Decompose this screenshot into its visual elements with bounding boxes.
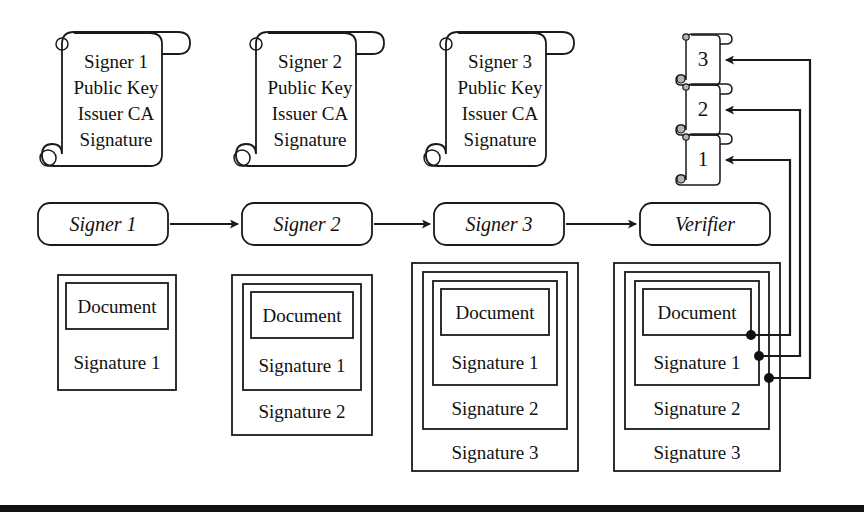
scroll-3-label: 3: [698, 47, 709, 71]
stack-2-signature-2-label: Signature 2: [258, 401, 345, 422]
diagram-canvas: Signer 1 Public Key Issuer CA Signature …: [0, 0, 864, 529]
connector-signature2-to-scroll-3: [726, 60, 810, 378]
actor-signer-2-label: Signer 2: [273, 213, 340, 236]
actor-signer-1-label: Signer 1: [69, 213, 136, 236]
actor-signer-1[interactable]: Signer 1: [38, 203, 168, 245]
scroll-3-bottom-knob: [677, 75, 685, 83]
numbered-scroll-3: 3: [676, 34, 732, 85]
stack-1: Document Signature 1: [58, 275, 176, 390]
stack-2-signature-1-label: Signature 1: [258, 355, 345, 376]
cert-2-line-1: Public Key: [268, 77, 353, 98]
actor-verifier-label: Verifier: [675, 213, 735, 236]
scroll-1-top-knob: [683, 134, 689, 140]
stack-3-document-label: Document: [455, 302, 535, 323]
scroll-2-bottom-knob: [677, 125, 685, 133]
stack-4-signature-3-label: Signature 3: [653, 442, 740, 463]
scroll-1-label: 1: [698, 147, 709, 171]
scroll-2-label: 2: [698, 97, 709, 121]
connector-dot-document: [746, 330, 756, 340]
actor-signer-2[interactable]: Signer 2: [242, 203, 372, 245]
cert-3-line-0: Signer 3: [468, 51, 532, 72]
stack-1-signature-1-label: Signature 1: [73, 352, 160, 373]
stack-4-document-label: Document: [657, 302, 737, 323]
certificate-scroll-1: Signer 1 Public Key Issuer CA Signature: [40, 32, 190, 166]
cert-1-line-1: Public Key: [74, 77, 159, 98]
stack-3-signature-1-label: Signature 1: [451, 352, 538, 373]
stack-2: Document Signature 1 Signature 2: [232, 275, 372, 435]
connector-dot-signature-1: [754, 351, 764, 361]
cert-2-line-2: Issuer CA: [272, 103, 349, 124]
cert-3-line-2: Issuer CA: [462, 103, 539, 124]
actor-verifier[interactable]: Verifier: [640, 203, 770, 245]
stack-3: Document Signature 1 Signature 2 Signatu…: [412, 263, 578, 471]
certificate-scroll-3: Signer 3 Public Key Issuer CA Signature: [424, 32, 574, 166]
cert-1-line-2: Issuer CA: [78, 103, 155, 124]
stack-2-document-label: Document: [262, 305, 342, 326]
scroll-1-bottom-knob: [677, 175, 685, 183]
numbered-scroll-1: 1: [676, 134, 732, 185]
cert-3-line-1: Public Key: [458, 77, 543, 98]
cert-3-line-3: Signature: [464, 129, 537, 150]
cert-1-line-0: Signer 1: [84, 51, 148, 72]
cert-1-line-3: Signature: [80, 129, 153, 150]
actor-signer-3-label: Signer 3: [465, 213, 532, 236]
actor-signer-3[interactable]: Signer 3: [434, 203, 564, 245]
stack-3-signature-3-label: Signature 3: [451, 442, 538, 463]
bottom-rule: [0, 505, 864, 512]
cert-2-line-3: Signature: [274, 129, 347, 150]
stack-4: Document Signature 1 Signature 2 Signatu…: [614, 263, 780, 471]
scroll-2-top-knob: [683, 84, 689, 90]
connector-dot-signature-2: [764, 373, 774, 383]
scroll-3-top-knob: [683, 34, 689, 40]
stack-1-document-label: Document: [77, 296, 157, 317]
diagram-svg: Signer 1 Public Key Issuer CA Signature …: [0, 0, 864, 529]
stack-4-signature-1-label: Signature 1: [653, 352, 740, 373]
cert-2-line-0: Signer 2: [278, 51, 342, 72]
stack-4-signature-2-label: Signature 2: [653, 398, 740, 419]
stack-3-signature-2-label: Signature 2: [451, 398, 538, 419]
numbered-scroll-2: 2: [676, 84, 732, 135]
certificate-scroll-2: Signer 2 Public Key Issuer CA Signature: [234, 32, 384, 166]
